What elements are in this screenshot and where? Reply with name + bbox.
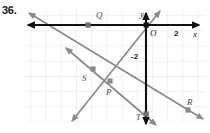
- point-label-Q: Q: [96, 11, 103, 20]
- point-label-S: S: [82, 74, 87, 83]
- point-S-marker: [90, 66, 95, 71]
- point-R-marker: [185, 107, 190, 112]
- point-T-marker: [144, 111, 149, 116]
- x-axis-label: x: [193, 30, 197, 39]
- problem-figure-page: 36.: [0, 0, 210, 133]
- origin-label: O: [150, 29, 157, 38]
- point-label-R: R: [187, 98, 193, 107]
- y-axis-label: y: [140, 10, 144, 19]
- point-P-marker: [107, 78, 112, 83]
- point-label-P: P: [106, 88, 112, 97]
- coordinate-plane-figure: [0, 0, 210, 133]
- x-axis-tick-2: 2: [174, 30, 178, 38]
- point-label-T: T: [136, 113, 141, 122]
- origin-marker: [144, 22, 149, 27]
- point-Q-marker: [85, 22, 90, 27]
- y-axis-tick-negative-2: -2: [131, 53, 138, 61]
